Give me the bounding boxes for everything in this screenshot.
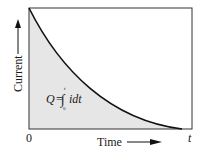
x-axis-label: Time: [97, 135, 122, 149]
svg-text:Q: Q: [46, 92, 55, 106]
y-axis-arrow-icon: [15, 19, 21, 54]
x-axis-arrow-icon: [127, 139, 162, 145]
x-end-label: t: [188, 131, 192, 145]
current-time-diagram: Current 0 Time t Q = ∫ t 0 idt: [0, 0, 202, 155]
y-axis-label: Current: [11, 55, 25, 92]
svg-text:idt: idt: [69, 92, 82, 106]
shaded-area: [29, 8, 182, 129]
x-origin-label: 0: [26, 131, 32, 145]
